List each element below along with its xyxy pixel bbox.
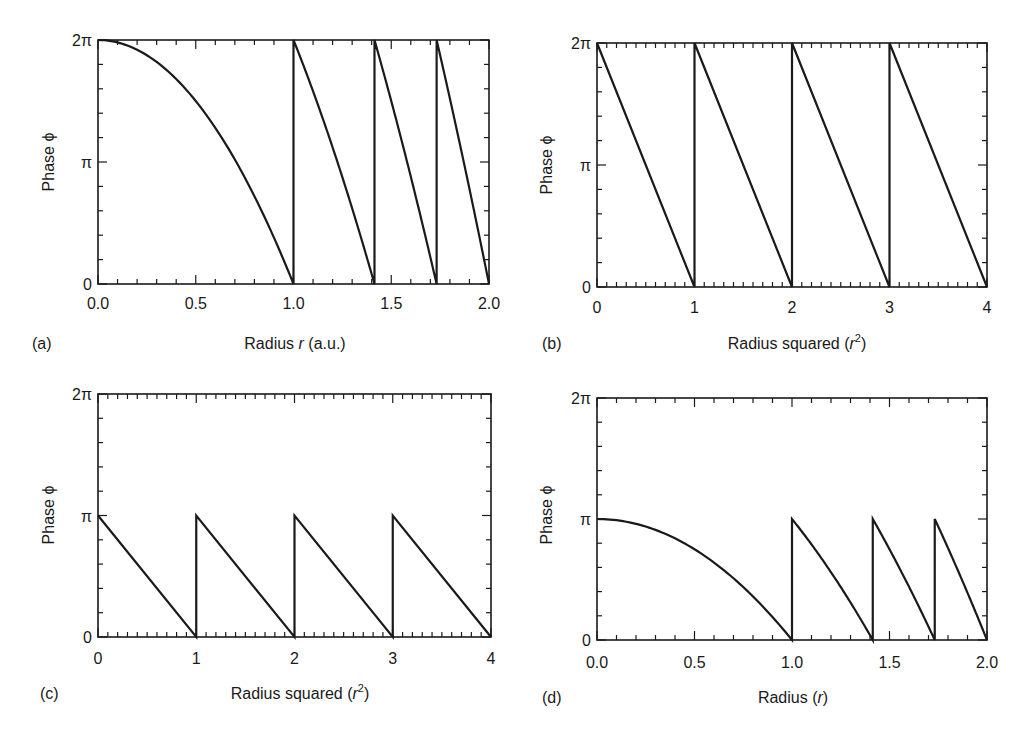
plot-area-a	[98, 40, 489, 284]
ytick-label-pi: π	[580, 511, 591, 528]
xtick-label: 4	[983, 299, 992, 316]
xtick-label: 0	[593, 299, 602, 316]
plot-area-c	[98, 394, 491, 637]
x-axis-title: Radius squared (r2)	[728, 332, 867, 352]
y-axis-title: Phase ϕ	[538, 136, 555, 195]
ytick-label-0: 0	[83, 629, 92, 646]
plot-area-b	[597, 43, 987, 287]
xtick-label: 3	[885, 299, 894, 316]
xtick-label: 1.5	[380, 295, 402, 312]
xtick-label: 2	[788, 299, 797, 316]
xtick-label: 2	[290, 650, 299, 667]
panel-label-a: (a)	[32, 335, 52, 352]
x-axis-title: Radius squared (r2)	[231, 682, 370, 702]
xtick-label: 1	[192, 650, 201, 667]
y-axis-title: Phase ϕ	[40, 486, 57, 545]
ytick-label-pi: π	[580, 157, 591, 174]
xtick-label: 1	[690, 299, 699, 316]
panel-label-c: (c)	[40, 685, 59, 702]
phase-curve	[597, 43, 987, 287]
xtick-label: 0.0	[87, 295, 109, 312]
xtick-label: 4	[487, 650, 496, 667]
phase-curve	[597, 519, 987, 640]
xtick-label: 0.5	[185, 295, 207, 312]
x-axis-title: Radius (r)	[758, 689, 828, 706]
ytick-label-2pi: 2π	[571, 35, 591, 52]
ytick-label-2pi: 2π	[72, 32, 92, 49]
panel-b: 2π π 0 0 1 2 3 4 Phase ϕ (b) Radius squa…	[538, 35, 992, 352]
figure-canvas: 2π π 0 0.0 0.5 1.0 1.5 2.0 Phase ϕ (a) R…	[0, 0, 1034, 737]
y-axis-title: Phase ϕ	[538, 486, 555, 545]
plot-area-d	[597, 398, 987, 640]
ytick-label-0: 0	[582, 632, 591, 649]
xtick-label: 1.0	[781, 654, 803, 671]
panel-c: 2π π 0 0 1 2 3 4 Phase ϕ (c) Radius squa…	[40, 386, 496, 702]
ytick-label-0: 0	[582, 279, 591, 296]
xtick-label: 1.0	[282, 295, 304, 312]
panel-label-b: (b)	[542, 335, 562, 352]
panel-d: 2π π 0 0.0 0.5 1.0 1.5 2.0 Phase ϕ (d) R…	[538, 390, 998, 706]
xtick-label: 2.0	[478, 295, 500, 312]
ytick-label-2pi: 2π	[72, 386, 92, 403]
xtick-label: 1.5	[878, 654, 900, 671]
ytick-label-pi: π	[81, 154, 92, 171]
panel-label-d: (d)	[542, 689, 562, 706]
xtick-label: 0.5	[683, 654, 705, 671]
xtick-label: 2.0	[976, 654, 998, 671]
ytick-label-pi: π	[81, 508, 92, 525]
ytick-label-0: 0	[83, 276, 92, 293]
phase-curve	[98, 40, 489, 284]
xtick-label: 3	[388, 650, 397, 667]
y-axis-title: Phase ϕ	[40, 133, 57, 192]
panel-a: 2π π 0 0.0 0.5 1.0 1.5 2.0 Phase ϕ (a) R…	[32, 32, 500, 352]
x-axis-title: Radius r (a.u.)	[244, 335, 345, 352]
phase-curve	[98, 516, 491, 638]
xtick-label: 0	[94, 650, 103, 667]
ytick-label-2pi: 2π	[571, 390, 591, 407]
xtick-label: 0.0	[586, 654, 608, 671]
